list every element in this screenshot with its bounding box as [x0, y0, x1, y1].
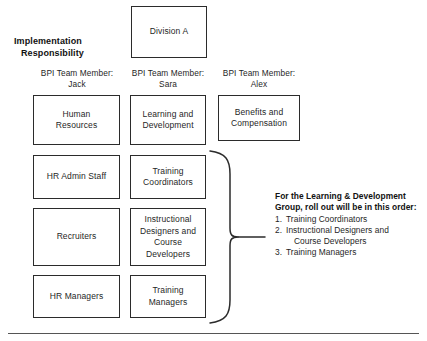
node-training-managers-line-2: Managers	[149, 297, 188, 309]
rollout-list-item: 3. Training Managers	[275, 247, 423, 258]
node-learning-and-development-line-2: Development	[142, 120, 193, 132]
caption-team-member-alex: BPI Team Member: Alex	[216, 68, 302, 89]
implementation-responsibility-heading: Implementation Responsibility	[14, 36, 84, 59]
node-training-coordinators-line-1: Training	[143, 166, 193, 178]
node-training-coordinators-line-2: Coordinators	[143, 177, 193, 189]
node-human-resources-line-2: Resources	[56, 120, 98, 132]
node-human-resources[interactable]: Human Resources	[33, 95, 120, 145]
footer-divider	[8, 333, 419, 334]
node-learning-and-development[interactable]: Learning and Development	[130, 95, 206, 145]
node-recruiters-label: Recruiters	[57, 231, 97, 243]
node-training-managers[interactable]: Training Managers	[130, 275, 206, 318]
node-learning-and-development-line-1: Learning and	[142, 109, 193, 121]
heading-line-1: Implementation	[14, 36, 84, 48]
node-recruiters[interactable]: Recruiters	[33, 208, 120, 266]
caption-alex-line-1: BPI Team Member:	[216, 68, 302, 79]
node-hr-admin-staff-label: HR Admin Staff	[47, 171, 106, 183]
rollout-order-callout: For the Learning & Development Group, ro…	[275, 191, 423, 258]
rollout-list-item: 1. Training Coordinators	[275, 214, 423, 225]
rollout-item-1-number: 1.	[275, 214, 282, 225]
rollout-list-item: 2. Instructional Designers and	[275, 225, 423, 236]
caption-sara-line-1: BPI Team Member:	[129, 68, 207, 79]
node-training-coordinators[interactable]: Training Coordinators	[130, 155, 206, 199]
rollout-order-list: 1. Training Coordinators 2. Instructiona…	[275, 214, 423, 258]
rollout-item-2-number: 2.	[275, 225, 282, 236]
node-instructional-designers-line-2: Designers and	[140, 226, 196, 238]
node-division-a[interactable]: Division A	[131, 6, 207, 58]
caption-team-member-jack: BPI Team Member: Jack	[33, 68, 121, 89]
node-instructional-designers-line-4: Developers	[140, 249, 196, 261]
rollout-item-3-number: 3.	[275, 247, 282, 258]
node-division-a-label: Division A	[150, 26, 188, 38]
callout-title-line-1: For the Learning & Development	[275, 191, 423, 202]
caption-jack-line-2: Jack	[33, 79, 121, 90]
node-hr-managers[interactable]: HR Managers	[33, 275, 120, 318]
rollout-item-3-text: Training Managers	[286, 247, 356, 257]
caption-jack-line-1: BPI Team Member:	[33, 68, 121, 79]
node-instructional-designers-line-3: Course	[140, 237, 196, 249]
caption-team-member-sara: BPI Team Member: Sara	[129, 68, 207, 89]
caption-alex-line-2: Alex	[216, 79, 302, 90]
node-instructional-designers-and-course-developers[interactable]: Instructional Designers and Course Devel…	[130, 208, 206, 266]
rollout-item-2-text: Instructional Designers and	[286, 225, 389, 235]
node-human-resources-line-1: Human	[56, 109, 98, 121]
callout-title-line-2: Group, roll out will be in this order:	[275, 202, 423, 213]
heading-line-2: Responsibility	[14, 48, 84, 60]
node-hr-admin-staff[interactable]: HR Admin Staff	[33, 155, 120, 199]
rollout-item-1-text: Training Coordinators	[286, 214, 367, 224]
grouping-brace-icon	[196, 148, 274, 326]
node-benefits-and-compensation-line-2: Compensation	[231, 118, 287, 130]
node-benefits-and-compensation[interactable]: Benefits and Compensation	[218, 95, 300, 141]
node-hr-managers-label: HR Managers	[50, 291, 104, 303]
rollout-list-item: Course Developers	[275, 236, 423, 247]
node-instructional-designers-line-1: Instructional	[140, 214, 196, 226]
node-training-managers-line-1: Training	[149, 285, 188, 297]
node-benefits-and-compensation-line-1: Benefits and	[231, 107, 287, 119]
caption-sara-line-2: Sara	[129, 79, 207, 90]
rollout-item-2-continuation-text: Course Developers	[294, 236, 367, 246]
org-chart-diagram: Implementation Responsibility Division A…	[0, 0, 427, 341]
